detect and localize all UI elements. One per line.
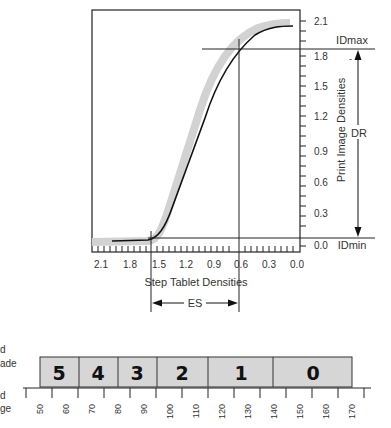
es-arrow-left-icon (152, 300, 162, 307)
y-tick-label: 0.3 (314, 208, 328, 219)
dr-arrow-up-icon (355, 50, 362, 60)
wedge-side-label-top-2: ade (0, 358, 17, 369)
y-axis-ticks (300, 21, 306, 246)
wedge-side-labels: d ade d ge (0, 344, 17, 414)
y-tick-label: 0.9 (314, 146, 328, 157)
sensitometric-diagram: 2.1 1.8 1.5 1.2 0.9 0.6 0.3 0.0 2.1 1.8 … (0, 0, 391, 428)
x-axis-ticks (98, 246, 293, 252)
x-tick-label: 0.0 (290, 259, 304, 270)
scale-label: 50 (35, 404, 45, 414)
x-tick-label: 2.1 (94, 259, 108, 270)
y-axis-title: Print Image Densities (335, 77, 347, 182)
x-tick-label: 1.2 (179, 259, 193, 270)
step-wedge-bar (40, 357, 352, 387)
scale-label: 60 (61, 404, 71, 414)
es-arrow-right-icon (228, 300, 238, 307)
dr-arrow-down-icon (355, 227, 362, 237)
wedge-step: 4 (91, 362, 104, 384)
x-tick-label: 1.8 (123, 259, 137, 270)
x-tick-label: 0.6 (234, 259, 248, 270)
x-tick-label: 1.5 (152, 259, 166, 270)
wedge-side-label-top-1: d (0, 344, 6, 355)
x-tick-label: 0.3 (262, 259, 276, 270)
scale-label: 160 (321, 404, 331, 419)
wedge-step: 5 (52, 362, 65, 384)
scale-label: 90 (139, 404, 149, 414)
wedge-step: 3 (130, 362, 143, 384)
wedge-scale-ticks (26, 388, 364, 398)
step-wedge: 5 4 3 2 1 0 (40, 357, 352, 387)
scale-label: 80 (113, 404, 123, 414)
x-tick-label: 0.9 (207, 259, 221, 270)
dr-label: DR (351, 127, 367, 139)
wedge-step: 2 (175, 362, 188, 384)
x-axis-title: Step Tablet Densities (144, 276, 248, 288)
wedge-side-label-bottom-1: d (0, 390, 6, 401)
scale-label: 130 (243, 404, 253, 419)
wedge-step: 0 (306, 362, 319, 384)
y-tick-label: 0.6 (314, 177, 328, 188)
wedge-side-label-bottom-2: ge (0, 403, 12, 414)
scale-label: 70 (87, 404, 97, 414)
scale-label: 100 (165, 404, 175, 419)
es-label: ES (188, 297, 203, 309)
reference-band (92, 23, 290, 242)
characteristic-curve (112, 26, 293, 241)
y-tick-label: 1.8 (314, 51, 328, 62)
y-tick-label: 0.0 (314, 240, 328, 251)
scale-label: 110 (191, 404, 201, 418)
scale-label: 140 (269, 404, 279, 419)
scale-label: 170 (347, 404, 357, 419)
y-tick-labels: 2.1 1.8 1.5 1.2 0.9 0.6 0.3 0.0 (314, 16, 328, 251)
x-tick-labels: 2.1 1.8 1.5 1.2 0.9 0.6 0.3 0.0 (94, 259, 304, 270)
idmax-label: IDmax (336, 34, 368, 46)
scale-label: 150 (295, 404, 305, 419)
y-tick-label: 1.2 (314, 111, 328, 122)
y-tick-label: 1.5 (314, 81, 328, 92)
y-tick-label: 2.1 (314, 16, 328, 27)
tick-mark-minus: - (349, 54, 352, 64)
wedge-step: 1 (234, 362, 247, 384)
wedge-scale-labels: 50 60 70 80 90 100 110 120 130 140 150 1… (35, 404, 357, 419)
idmin-label: IDmin (338, 239, 367, 251)
scale-label: 120 (217, 404, 227, 419)
